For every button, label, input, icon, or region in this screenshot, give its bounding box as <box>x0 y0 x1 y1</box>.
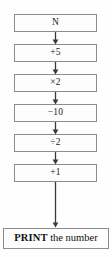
flowchart-node-step5: +1 <box>14 164 97 182</box>
arrow-down-icon-5 <box>50 152 61 165</box>
node-label-start: N <box>52 18 59 28</box>
node-label-step3: −10 <box>48 108 63 118</box>
node-label-print: PRINT the number <box>14 233 97 244</box>
node-label-step1: +5 <box>50 48 61 58</box>
print-rest: the number <box>48 232 98 243</box>
print-keyword: PRINT <box>14 232 47 243</box>
node-label-step5: +1 <box>50 168 61 178</box>
flowchart-diagram: N +5 ×2 −10 ÷2 +1 PRINT the number <box>0 0 112 257</box>
node-label-step2: ×2 <box>50 78 61 88</box>
arrow-down-icon-4 <box>50 122 61 135</box>
arrow-down-icon-2 <box>50 62 61 75</box>
flowchart-node-step4: ÷2 <box>14 134 97 152</box>
flowchart-node-step1: +5 <box>14 44 97 62</box>
flowchart-node-step2: ×2 <box>14 74 97 92</box>
arrow-down-icon-6 <box>50 182 61 228</box>
node-label-step4: ÷2 <box>50 138 60 148</box>
flowchart-node-step3: −10 <box>14 104 97 122</box>
arrow-down-icon-3 <box>50 92 61 105</box>
arrow-down-icon-1 <box>50 32 61 45</box>
flowchart-node-print: PRINT the number <box>3 228 109 249</box>
flowchart-node-start: N <box>14 14 97 32</box>
